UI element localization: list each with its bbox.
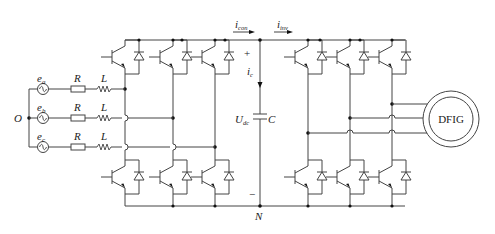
- rotor-side-converter: [284, 38, 430, 207]
- label-ea: ea: [37, 72, 46, 86]
- igbt-switch-lower-ra: [284, 160, 327, 194]
- label-plus: +: [244, 47, 250, 59]
- resistor-b-icon: [71, 115, 85, 121]
- igbt-switch-lower-a: [101, 160, 144, 194]
- inductor-b-icon: [97, 115, 111, 121]
- igbt-switch-upper-rc: [368, 40, 411, 74]
- label-eb: eb: [37, 101, 46, 115]
- igbt-switch-lower-c: [191, 160, 234, 194]
- label-r-c: R: [73, 130, 81, 142]
- igbt-switch-lower-b: [149, 160, 192, 194]
- igbt-switch-upper-a: [101, 40, 144, 74]
- inductor-c-icon: [97, 144, 111, 150]
- label-l-b: L: [100, 101, 107, 113]
- label-i-con: icon: [235, 18, 247, 31]
- dfig-machine: DFIG: [423, 91, 479, 147]
- igbt-switch-upper-c: [191, 40, 234, 74]
- dc-link: icon iinv + ic Udc C − N: [233, 18, 293, 222]
- label-minus: −: [249, 188, 255, 200]
- label-c: C: [268, 113, 276, 125]
- label-i-inv: iinv: [277, 18, 288, 31]
- label-udc: Udc: [235, 113, 249, 126]
- igbt-switch-lower-rb: [326, 160, 369, 194]
- label-r-b: R: [73, 101, 81, 113]
- label-l-a: L: [100, 72, 107, 84]
- label-dfig: DFIG: [438, 113, 464, 125]
- capacitor-current-arrow-icon: [258, 82, 263, 88]
- label-i-c: ic: [247, 65, 253, 78]
- ac-grid-sources: O ea eb ec R R R L L: [14, 72, 215, 153]
- label-ec: ec: [37, 130, 46, 144]
- igbt-switch-upper-rb: [326, 40, 369, 74]
- grid-side-converter: [101, 38, 234, 207]
- igbt-switch-lower-rc: [368, 160, 411, 194]
- inductor-a-icon: [97, 86, 111, 92]
- circuit-diagram: O ea eb ec R R R L L: [0, 0, 495, 234]
- label-l-c: L: [100, 130, 107, 142]
- icon-current-arrow-icon: [249, 30, 255, 34]
- resistor-a-icon: [71, 86, 85, 92]
- label-r-a: R: [73, 72, 81, 84]
- igbt-switch-upper-ra: [284, 40, 327, 74]
- igbt-switch-upper-b: [149, 40, 192, 74]
- label-o: O: [14, 112, 22, 124]
- resistor-c-icon: [71, 144, 85, 150]
- label-n: N: [254, 210, 263, 222]
